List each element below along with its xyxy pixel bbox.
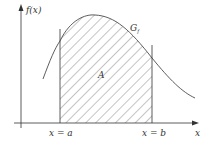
curve-label: Gf (130, 23, 140, 35)
y-axis-label: f(x) (25, 5, 42, 15)
right-bound-label: x = b (142, 128, 166, 138)
x-axis-label: x (195, 128, 200, 138)
shaded-area (60, 10, 152, 123)
x-axis-arrow-icon (192, 121, 199, 126)
area-label: A (97, 70, 105, 80)
y-axis-arrow-icon (19, 4, 24, 11)
area-under-curve-diagram: f(x) Gf A x = a x = b x (0, 0, 209, 145)
left-bound-label: x = a (49, 128, 73, 138)
